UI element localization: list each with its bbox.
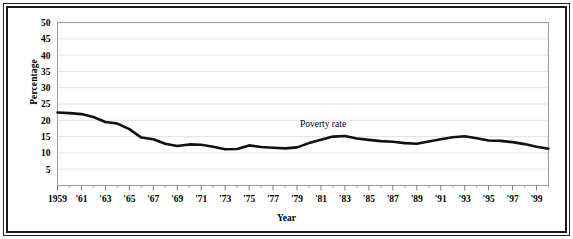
plot-wrapper: 5101520253035404550 1959'61'63'65'67'69'… xyxy=(0,0,573,239)
x-axis-ticks xyxy=(58,186,549,191)
x-tick-label: '77 xyxy=(267,194,279,204)
x-tick-label: '85 xyxy=(363,194,375,204)
chart-figure: 5101520253035404550 1959'61'63'65'67'69'… xyxy=(0,0,573,239)
y-axis-tick-labels: 5101520253035404550 xyxy=(41,18,51,175)
x-tick-label: '69 xyxy=(171,194,183,204)
x-tick-label: '97 xyxy=(507,194,519,204)
x-tick-label: '87 xyxy=(387,194,399,204)
x-tick-label: '73 xyxy=(219,194,231,204)
y-tick-label: 15 xyxy=(41,132,51,142)
x-tick-label: '81 xyxy=(315,194,327,204)
x-tick-label: '83 xyxy=(339,194,351,204)
x-tick-label: '95 xyxy=(483,194,495,204)
poverty-rate-line-chart: 5101520253035404550 1959'61'63'65'67'69'… xyxy=(0,0,573,239)
x-axis-tick-labels: 1959'61'63'65'67'69'71'73'75'77'79'81'83… xyxy=(48,194,543,204)
y-tick-label: 50 xyxy=(41,18,51,28)
y-tick-label: 5 xyxy=(46,165,51,175)
x-tick-label: '99 xyxy=(530,194,542,204)
y-tick-label: 20 xyxy=(41,116,51,126)
x-tick-label: '79 xyxy=(291,194,303,204)
gridlines xyxy=(58,23,549,170)
y-tick-label: 10 xyxy=(41,148,51,158)
x-tick-label: '71 xyxy=(195,194,207,204)
y-tick-label: 25 xyxy=(41,99,51,109)
x-tick-label: 1959 xyxy=(48,194,67,204)
x-tick-label: '61 xyxy=(75,194,87,204)
x-tick-label: '63 xyxy=(99,194,111,204)
y-tick-label: 35 xyxy=(41,67,51,77)
x-tick-label: '89 xyxy=(411,194,423,204)
y-tick-label: 45 xyxy=(41,34,51,44)
x-tick-label: '93 xyxy=(459,194,471,204)
y-tick-label: 40 xyxy=(41,51,51,61)
x-tick-label: '91 xyxy=(435,194,447,204)
x-tick-label: '67 xyxy=(147,194,159,204)
x-tick-label: '65 xyxy=(123,194,135,204)
poverty-rate-annotation: Poverty rate xyxy=(300,119,346,129)
y-tick-label: 30 xyxy=(41,83,51,93)
x-tick-label: '75 xyxy=(243,194,255,204)
y-axis-title: Percentage xyxy=(29,42,39,122)
x-axis-title: Year xyxy=(0,213,573,223)
